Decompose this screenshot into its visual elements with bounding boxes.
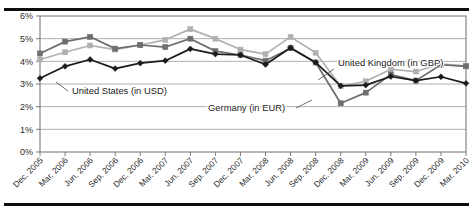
y-axis-tick-label: 1% bbox=[20, 125, 33, 135]
line-chart-plot: 0%1%2%3%4%5%6% Dec. 2005Mar. 2006Jun. 20… bbox=[0, 10, 473, 205]
data-point-marker bbox=[438, 74, 444, 80]
data-point-marker bbox=[88, 43, 93, 48]
data-point-marker bbox=[38, 51, 43, 56]
data-point-marker bbox=[112, 66, 118, 72]
data-point-marker bbox=[138, 43, 143, 48]
data-point-marker bbox=[313, 50, 318, 55]
annotation-label-united-states-in-usd: United States (in USD) bbox=[72, 85, 167, 96]
y-axis-tick-label: 6% bbox=[20, 11, 33, 21]
chart-figure: 0%1%2%3%4%5%6% Dec. 2005Mar. 2006Jun. 20… bbox=[0, 0, 473, 214]
y-axis-tick-label: 2% bbox=[20, 102, 33, 112]
y-axis-tick-label: 5% bbox=[20, 34, 33, 44]
y-axis-tick-label: 0% bbox=[20, 147, 33, 157]
data-point-marker bbox=[464, 64, 469, 69]
data-point-marker bbox=[163, 37, 168, 42]
bottom-rule bbox=[4, 203, 469, 206]
data-point-marker bbox=[188, 36, 193, 41]
y-axis-tick-labels: 0%1%2%3%4%5%6% bbox=[20, 11, 33, 157]
data-point-marker bbox=[363, 90, 368, 95]
x-axis-tick-marks bbox=[40, 152, 466, 156]
data-point-marker bbox=[188, 27, 193, 32]
x-axis-tick-labels: Dec. 2005Mar. 2006Jun. 2006Sep. 2006Dec.… bbox=[11, 155, 471, 189]
y-axis-tick-label: 3% bbox=[20, 79, 33, 89]
data-point-marker bbox=[113, 46, 118, 51]
data-point-marker bbox=[63, 39, 68, 44]
data-point-marker bbox=[238, 47, 243, 52]
data-point-marker bbox=[187, 46, 193, 52]
data-point-marker bbox=[63, 50, 68, 55]
series-annotations: United States (in USD)United States (in … bbox=[56, 57, 443, 113]
data-point-marker bbox=[213, 36, 218, 41]
y-axis-tick-label: 4% bbox=[20, 57, 33, 67]
data-point-marker bbox=[338, 101, 343, 106]
cropped-title-fragment bbox=[120, 0, 360, 6]
gridlines bbox=[36, 16, 466, 152]
annotation-leader-line bbox=[56, 82, 68, 91]
data-point-marker bbox=[62, 63, 68, 69]
annotation-label-germany-in-eur: Germany (in EUR) bbox=[208, 102, 285, 113]
data-point-marker bbox=[38, 57, 43, 62]
data-point-marker bbox=[162, 58, 168, 64]
data-point-marker bbox=[88, 34, 93, 39]
data-point-marker bbox=[288, 34, 293, 39]
annotation-label-united-kingdom-in-gbp: United Kingdom (in GBP) bbox=[338, 57, 443, 68]
data-point-marker bbox=[413, 69, 418, 74]
data-point-marker bbox=[163, 45, 168, 50]
data-point-marker bbox=[37, 75, 43, 81]
data-point-marker bbox=[463, 80, 469, 86]
data-point-marker bbox=[263, 52, 268, 57]
